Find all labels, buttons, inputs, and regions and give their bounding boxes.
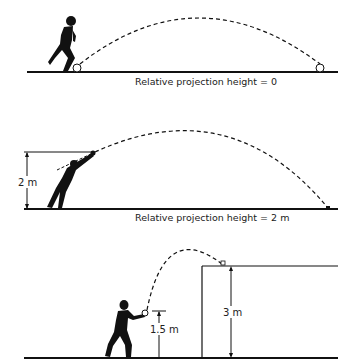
caption-ground-level: Relative projection height = 0 — [135, 76, 277, 87]
trajectory — [95, 131, 328, 208]
dimension-label-1-5m: 1.5 m — [150, 324, 179, 335]
ball-landing — [221, 261, 225, 265]
trajectory — [147, 250, 222, 310]
ball-start — [73, 64, 81, 72]
caption-elevated-release: Relative projection height = 2 m — [135, 212, 289, 223]
trajectory — [80, 18, 320, 64]
thrower-figure — [47, 153, 94, 208]
arrow-up-icon — [229, 266, 233, 271]
panel-ground-level: Relative projection height = 0 — [27, 16, 338, 87]
dimension-label-2m: 2 m — [18, 177, 37, 188]
ball-landing — [316, 64, 324, 72]
dimension-label-3m: 3 m — [223, 307, 242, 318]
panel-elevated-release: 2 m Relative projection height = 2 m — [17, 131, 338, 223]
kicker-figure — [48, 16, 76, 71]
ball-release — [91, 151, 96, 156]
arrow-up-icon — [157, 311, 161, 316]
thrower-figure — [105, 300, 145, 357]
ball-landing — [326, 206, 330, 210]
projection-height-diagram: Relative projection height = 0 2 m Relat… — [0, 0, 356, 361]
panel-onto-platform: 3 m 1.5 m — [24, 250, 338, 358]
arrow-up-icon — [25, 152, 29, 157]
ball-release — [142, 310, 148, 316]
